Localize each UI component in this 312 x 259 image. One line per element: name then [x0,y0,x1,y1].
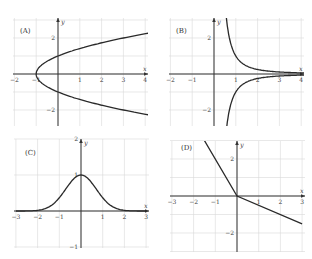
y-tick-label: 2 [207,34,211,41]
x-tick-label: 1 [234,76,238,83]
panel-label: (B) [176,27,187,35]
x-axis-label: x [144,202,148,210]
grid [13,18,148,126]
x-axis-label: x [299,65,303,73]
x-tick-label: 2 [122,213,126,220]
x-tick-label: 4 [299,76,303,83]
x-tick-label: 2 [256,76,260,83]
x-tick-label: 3 [277,76,281,83]
y-axis-label: y [216,18,221,26]
panel-b: xy−2−112342−2(B) [166,15,306,134]
x-tick-label: −2 [166,76,175,83]
y-tick-label: −1 [69,243,78,250]
x-tick-label: 3 [121,76,125,83]
x-tick-label: 1 [101,213,105,220]
x-tick-label: −2 [10,76,19,83]
function-curve [204,141,302,224]
y-tick-label: −2 [225,229,234,236]
function-curve [226,75,306,134]
x-tick-label: 2 [278,198,282,205]
y-tick-label: 2 [51,34,55,41]
x-axis-label: x [300,187,304,195]
x-tick-label: −3 [167,198,176,205]
x-tick-label: −2 [33,213,42,220]
x-tick-label: 4 [143,76,147,83]
panel-c: xy−3−2−112321−1(C) [11,135,149,250]
x-tick-label: 3 [144,213,148,220]
x-tick-label: −3 [11,213,20,220]
y-axis-label: y [60,18,65,26]
x-tick-label: 2 [100,76,104,83]
x-tick-label: 3 [300,198,304,205]
y-tick-label: −2 [202,106,211,113]
y-tick-label: 2 [230,155,234,162]
x-tick-label: −1 [211,198,220,205]
y-tick-label: 2 [74,135,78,142]
curves [204,141,302,224]
y-axis-label: y [239,141,244,149]
x-tick-label: −1 [188,76,197,83]
panel-a: xy−2−112342−2(A) [10,18,162,126]
x-axis-label: x [143,65,147,73]
x-tick-label: −2 [189,198,198,205]
panel-d: xy−3−2−11232−2(D) [167,141,305,253]
function-curve [226,15,306,74]
x-tick-label: 1 [257,198,261,205]
y-arrow-icon [235,141,239,145]
x-tick-label: −1 [55,213,64,220]
panel-label: (A) [20,27,31,35]
y-arrow-icon [79,139,83,143]
y-axis-label: y [83,139,88,147]
panel-label: (D) [181,144,192,152]
y-tick-label: −2 [46,106,55,113]
function-graphs-grid: xy−2−112342−2(A)xy−2−112342−2(B)xy−3−2−1… [0,0,312,259]
panel-label: (C) [25,149,36,157]
x-tick-label: 1 [78,76,82,83]
